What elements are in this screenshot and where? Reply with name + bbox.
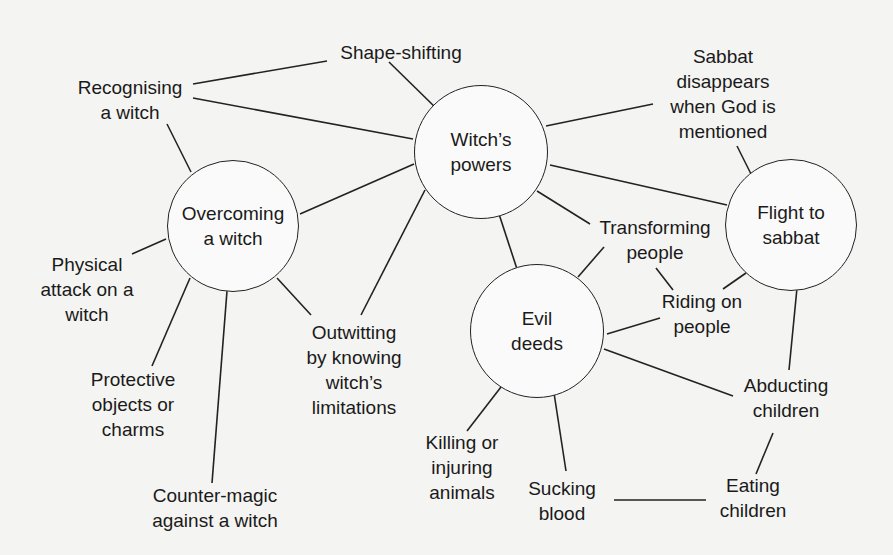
hub-witchs-powers: Witch’s powers: [414, 85, 548, 219]
witch-powers-concept-map: Witch’s powers Overcoming a witch Flight…: [0, 0, 893, 555]
edge-flight-riding: [723, 273, 746, 289]
edge-recognising-shape_shifting: [193, 61, 327, 84]
edge-transforming-riding: [656, 268, 673, 290]
edge-evil_deeds-sucking: [554, 393, 566, 471]
edge-flight-abducting: [789, 288, 797, 370]
edge-shape_shifting-witchs_powers: [389, 62, 438, 110]
edge-witchs_powers-flight: [550, 165, 727, 205]
leaf-protective-objects: Protective objects or charms: [91, 367, 175, 442]
hub-label-overcoming: Overcoming a witch: [182, 201, 284, 251]
leaf-shape-shifting: Shape-shifting: [340, 40, 461, 65]
edge-overcoming-counter_magic: [212, 291, 227, 483]
leaf-outwitting: Outwitting by knowing witch’s limitation…: [306, 320, 401, 420]
edge-abducting-eating: [756, 433, 773, 474]
edge-recognising-witchs_powers: [193, 98, 413, 139]
edge-witchs_powers-outwitting: [361, 190, 425, 315]
leaf-counter-magic: Counter-magic against a witch: [152, 483, 278, 533]
edge-witchs_powers-sabbat_disappears: [546, 104, 653, 126]
edge-recognising-overcoming: [167, 124, 191, 172]
hub-overcoming-a-witch: Overcoming a witch: [167, 160, 299, 292]
edge-evil_deeds-killing: [467, 387, 501, 431]
edge-sabbat_disappears-flight: [737, 146, 751, 174]
leaf-sucking-blood: Sucking blood: [528, 476, 596, 526]
hub-label-evil-deeds: Evil deeds: [511, 306, 563, 356]
leaf-abducting-children: Abducting children: [744, 373, 829, 423]
leaf-recognising-a-witch: Recognising a witch: [78, 75, 183, 125]
edge-witchs_powers-transforming: [537, 191, 590, 224]
edge-witchs_powers-overcoming: [300, 164, 414, 214]
leaf-eating-children: Eating children: [720, 473, 787, 523]
hub-evil-deeds: Evil deeds: [470, 264, 604, 398]
hub-label-flight: Flight to sabbat: [757, 200, 825, 250]
edge-evil_deeds-abducting: [604, 349, 733, 396]
hub-flight-to-sabbat: Flight to sabbat: [725, 159, 857, 291]
hub-label-witchs-powers: Witch’s powers: [450, 127, 511, 177]
leaf-sabbat-disappears: Sabbat disappears when God is mentioned: [670, 44, 776, 144]
edge-overcoming-physical_attack: [132, 239, 166, 254]
leaf-physical-attack: Physical attack on a witch: [41, 252, 134, 327]
edge-overcoming-outwitting: [277, 278, 311, 315]
edge-evil_deeds-riding: [607, 318, 660, 334]
edge-overcoming-protective: [152, 278, 190, 366]
leaf-riding-on-people: Riding on people: [662, 289, 742, 339]
edge-witchs_powers-evil_deeds: [499, 214, 517, 269]
leaf-transforming-people: Transforming people: [599, 215, 710, 265]
leaf-killing-animals: Killing or injuring animals: [426, 430, 499, 505]
